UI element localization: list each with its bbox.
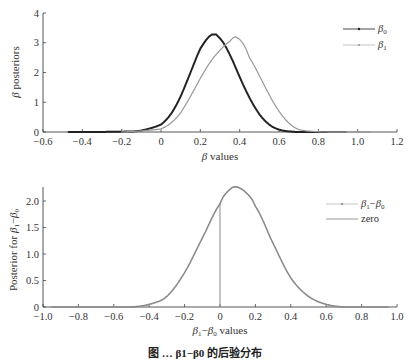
- x-tick-label: 0.8: [312, 136, 325, 147]
- x-tick-label: −0.2: [175, 311, 194, 322]
- x-tick-label: −0.4: [73, 136, 93, 147]
- legend-label-beta0: β0: [377, 23, 387, 36]
- x-tick-label: −1.0: [33, 311, 52, 322]
- legend-label-beta1: β1: [377, 39, 387, 52]
- x-tick-label: 0.6: [272, 136, 285, 147]
- y-tick-label: 0: [34, 302, 39, 313]
- legend-item-beta1: β1: [343, 39, 387, 52]
- top-posterior-chart: −0.6−0.4−0.200.20.40.60.81.01.201234 β p…: [9, 8, 404, 163]
- legend-item-zero: zero: [326, 213, 379, 224]
- legend-item-beta0: β0: [343, 23, 387, 36]
- x-tick-label: −0.6: [104, 311, 123, 322]
- top-y-axis-title: β posteriors: [9, 46, 21, 99]
- figure-caption: 图 … β1−β0 的后验分布: [0, 344, 410, 360]
- y-tick-label: 1.5: [26, 222, 39, 233]
- bottom-legend: β1−β0 zero: [326, 198, 385, 224]
- y-tick-label: 3: [34, 37, 39, 48]
- x-tick-label: 0.2: [249, 311, 262, 322]
- x-tick-label: 0.4: [233, 136, 247, 147]
- bottom-curves: [52, 187, 388, 307]
- y-tick-label: 1.0: [26, 249, 39, 260]
- y-tick-label: 0.5: [26, 275, 39, 286]
- y-tick-label: 4: [34, 8, 40, 19]
- bottom-y-axis-title: Posterior for β1−β0: [7, 208, 21, 291]
- y-tick-label: 2: [34, 67, 39, 78]
- top-curves: [69, 34, 372, 132]
- x-tick-label: 0.8: [355, 311, 368, 322]
- x-tick-label: −0.8: [69, 311, 88, 322]
- bottom-x-axis-title: β1−β0 values: [191, 324, 247, 338]
- y-tick-label: 2.0: [26, 196, 39, 207]
- x-tick-label: 1.0: [351, 136, 364, 147]
- series-1-curve: [122, 37, 372, 132]
- x-tick-label: 1.0: [390, 311, 403, 322]
- series-0-curve: [69, 34, 346, 132]
- x-tick-label: −0.4: [140, 311, 160, 322]
- x-tick-label: 0: [158, 136, 163, 147]
- bottom-axes: −1.0−0.8−0.6−0.4−0.200.20.40.60.81.000.5…: [26, 187, 404, 322]
- bottom-difference-chart: −1.0−0.8−0.6−0.4−0.200.20.40.60.81.000.5…: [7, 187, 404, 338]
- x-tick-label: −0.6: [33, 136, 52, 147]
- legend-label-difference: β1−β0: [360, 198, 385, 211]
- top-axes: −0.6−0.4−0.200.20.40.60.81.01.201234: [33, 8, 403, 148]
- x-tick-label: 0.4: [284, 311, 298, 322]
- y-tick-label: 1: [34, 97, 39, 108]
- x-tick-label: 1.2: [390, 136, 403, 147]
- x-tick-label: 0.2: [194, 136, 207, 147]
- x-tick-label: 0: [217, 311, 222, 322]
- legend-label-zero: zero: [361, 213, 379, 224]
- top-x-axis-title: β values: [201, 150, 238, 162]
- top-legend: β0 β1: [343, 23, 387, 52]
- legend-item-difference: β1−β0: [326, 198, 385, 211]
- x-tick-label: 0.6: [320, 311, 333, 322]
- y-tick-label: 0: [34, 127, 39, 138]
- x-tick-label: −0.2: [112, 136, 131, 147]
